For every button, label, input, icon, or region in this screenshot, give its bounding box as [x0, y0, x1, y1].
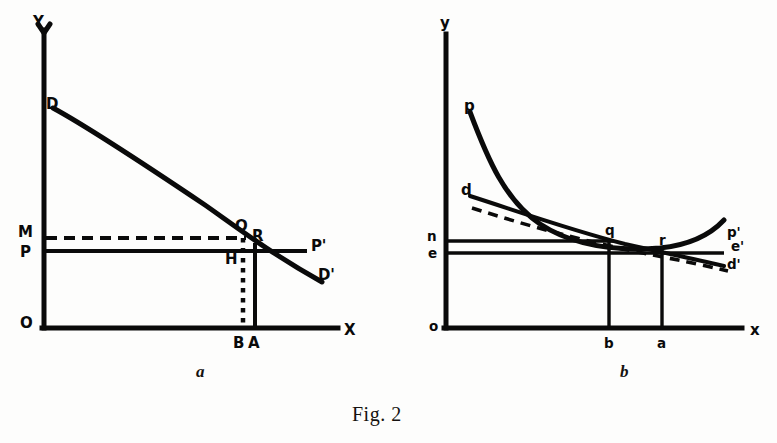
panel-b-point-n-label: n	[427, 230, 436, 244]
panel-a-origin-label: O	[20, 316, 33, 331]
panel-a-caption: a	[196, 363, 205, 380]
panel-a-point-m-label: M	[18, 225, 33, 240]
panel-a-point-h-label: H	[225, 252, 237, 267]
panel-a-point-q-label: Q	[235, 219, 248, 234]
panel-b-point-r-label: r	[659, 234, 665, 248]
panel-b-curve-d-prime-label: d'	[727, 258, 740, 272]
panel-b-point-e-label: e	[428, 247, 437, 261]
panel-b-curve-e-prime-label: e'	[731, 240, 744, 254]
panel-a-point-r-label: R	[252, 229, 263, 244]
panel-b-drawing	[444, 34, 742, 328]
panel-a-x-axis-label: X	[344, 323, 355, 338]
panel-a-drawing	[38, 24, 338, 328]
figure-caption: Fig. 2	[352, 404, 402, 424]
panel-b-curve-p-label: p	[464, 99, 475, 114]
figure-2-container: Y D M P Q R P' H D' O B A X a y p d n e …	[0, 0, 777, 443]
panel-a-point-p-label: P	[20, 245, 31, 260]
panel-a-demand-curve	[53, 108, 322, 282]
panel-a-y-axis-label: Y	[33, 15, 44, 30]
panel-a-curve-d-prime-label: D'	[318, 268, 335, 283]
panel-a-curve-d-label: D	[46, 97, 58, 112]
panel-a-point-b-label: B	[233, 336, 244, 351]
panel-b-y-axis-label: y	[440, 16, 450, 31]
panel-b-caption: b	[620, 363, 629, 380]
panel-b-point-b-label: b	[604, 337, 613, 351]
figure-drawing	[0, 0, 777, 443]
panel-b-point-a-label: a	[657, 337, 666, 351]
panel-b-curve-d-label: d	[461, 183, 472, 198]
panel-b-average-cost-curve	[470, 112, 724, 249]
panel-a-curve-p-prime-label: P'	[311, 239, 326, 254]
panel-b-demand-curve	[470, 196, 724, 266]
panel-a-point-a-label: A	[248, 336, 259, 351]
panel-b-point-q-label: q	[605, 224, 614, 238]
panel-b-origin-label: o	[429, 320, 438, 334]
panel-b-x-axis-label: x	[750, 323, 759, 338]
